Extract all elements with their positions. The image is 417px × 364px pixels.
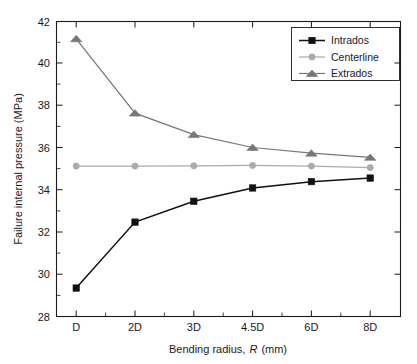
data-point-circle (73, 163, 79, 169)
legend-label-extrados: Extrados (331, 67, 372, 79)
legend-label-intrados: Intrados (331, 34, 369, 46)
x-tick-label: 3D (187, 321, 201, 333)
y-tick-label: 40 (38, 57, 50, 69)
y-tick-label: 38 (38, 99, 50, 111)
y-tick-label: 28 (38, 311, 50, 323)
data-point-square (249, 185, 255, 191)
data-point-circle (249, 162, 255, 168)
legend-label-centerline: Centerline (331, 51, 379, 63)
x-tick-label: 6D (304, 321, 318, 333)
x-tick-label: 8D (363, 321, 377, 333)
data-point-square (367, 175, 373, 181)
data-point-square (308, 178, 314, 184)
data-point-square (73, 285, 79, 291)
x-tick-label: 2D (128, 321, 142, 333)
y-tick-label: 34 (38, 184, 50, 196)
data-point-circle (367, 164, 373, 170)
y-axis-title: Failure internal pressure (MPa) (12, 93, 24, 245)
data-point-circle (132, 163, 138, 169)
y-tick-label: 32 (38, 226, 50, 238)
x-tick-label: D (72, 321, 80, 333)
data-point-square (132, 219, 138, 225)
y-tick-label: 36 (38, 142, 50, 154)
data-point-circle (191, 163, 197, 169)
x-axis-title: Bending radius,R(mm) (169, 343, 287, 355)
chart-figure: 28 30 32 34 36 38 40 42 (0, 0, 417, 364)
data-point-square (191, 198, 197, 204)
x-tick-label: 4.5D (241, 321, 264, 333)
legend-marker-square (309, 37, 315, 43)
legend-marker-circle (309, 54, 315, 60)
y-tick-label: 42 (38, 16, 50, 28)
data-point-circle (308, 163, 314, 169)
line-chart: 28 30 32 34 36 38 40 42 (0, 0, 417, 364)
y-tick-label: 30 (38, 268, 50, 280)
